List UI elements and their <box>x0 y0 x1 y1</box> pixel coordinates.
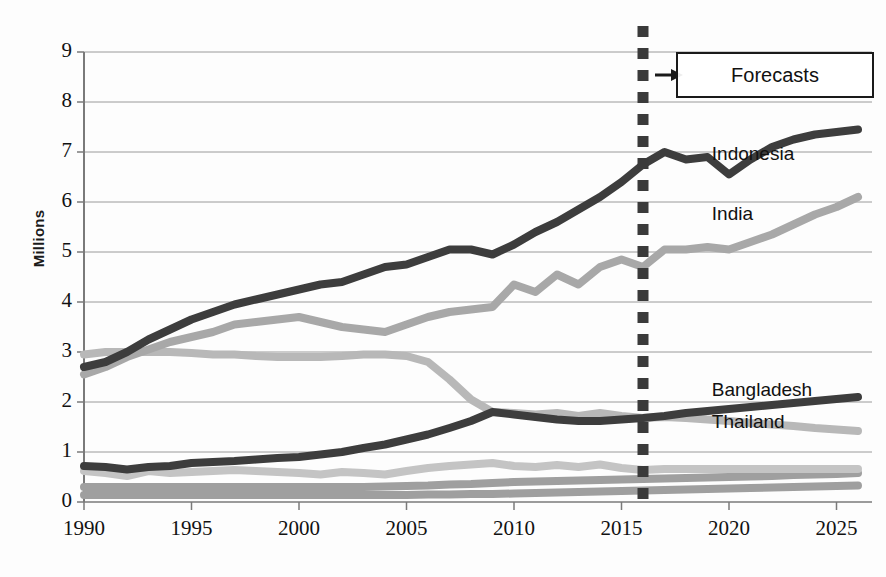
y-tick-label: 7 <box>32 138 72 163</box>
y-axis-ticks <box>77 52 84 502</box>
series-lines <box>84 130 858 496</box>
x-tick-label: 2000 <box>259 516 339 541</box>
forecasts-callout-label: Forecasts <box>678 54 872 96</box>
forecasts-callout-box: Forecasts <box>676 52 874 98</box>
series-label-thailand: Thailand <box>712 411 785 433</box>
x-tick-label: 1995 <box>152 516 232 541</box>
y-tick-label: 8 <box>32 88 72 113</box>
series-label-bangladesh: Bangladesh <box>712 379 812 401</box>
y-tick-label: 5 <box>32 238 72 263</box>
y-tick-label: 6 <box>32 188 72 213</box>
y-tick-label: 0 <box>32 488 72 513</box>
y-tick-label: 9 <box>32 38 72 63</box>
x-tick-label: 2025 <box>797 516 877 541</box>
x-tick-label: 2005 <box>367 516 447 541</box>
y-tick-label: 2 <box>32 388 72 413</box>
series-line-bangladesh <box>84 397 858 470</box>
y-tick-label: 1 <box>32 438 72 463</box>
x-axis-ticks <box>84 502 837 510</box>
series-label-indonesia: Indonesia <box>712 143 794 165</box>
axis-lines <box>84 52 872 502</box>
x-tick-label: 2015 <box>582 516 662 541</box>
line-chart: Millions 0123456789 19901995200020052010… <box>0 0 886 577</box>
x-tick-label: 2020 <box>689 516 769 541</box>
series-label-india: India <box>712 203 753 225</box>
y-tick-label: 4 <box>32 288 72 313</box>
x-tick-label: 2010 <box>474 516 554 541</box>
gridlines <box>84 52 872 502</box>
y-tick-label: 3 <box>32 338 72 363</box>
x-tick-label: 1990 <box>44 516 124 541</box>
